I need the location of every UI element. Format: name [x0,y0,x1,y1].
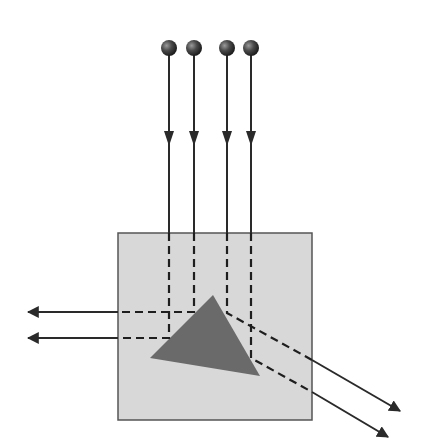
arrow-down-icon [222,131,232,146]
arrow-down-icon [246,131,256,146]
outgoing-ray-right-upper [312,360,400,411]
source-ball-icon [243,40,259,56]
down-arrowheads [164,131,256,146]
arrow-down-icon [164,131,174,146]
source-ball-icon [161,40,177,56]
outgoing-ray-right-lower [312,392,388,437]
source-ball-icon [186,40,202,56]
ray-sources [161,40,259,56]
source-ball-icon [219,40,235,56]
arrow-down-icon [189,131,199,146]
incoming-rays [169,52,251,233]
optics-diagram [0,0,429,447]
